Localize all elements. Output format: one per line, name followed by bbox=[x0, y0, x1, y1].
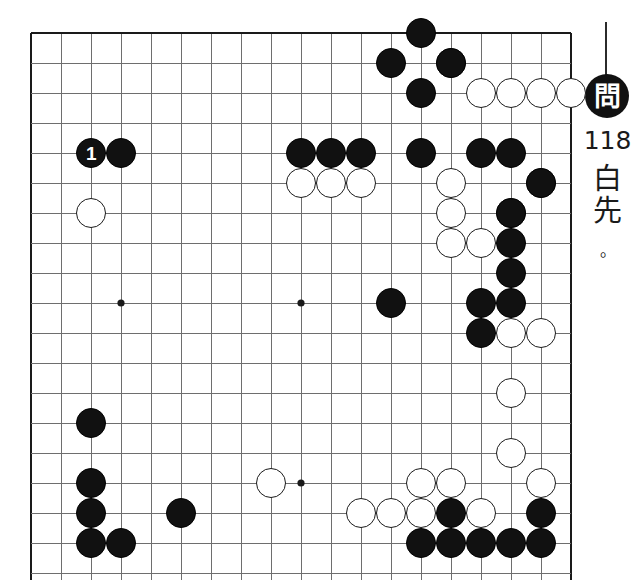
black-stone[interactable] bbox=[496, 528, 526, 558]
black-stone[interactable] bbox=[436, 498, 466, 528]
white-stone[interactable] bbox=[76, 198, 106, 228]
go-board[interactable]: 1 bbox=[0, 0, 580, 580]
black-stone[interactable] bbox=[436, 528, 466, 558]
black-stone[interactable] bbox=[496, 198, 526, 228]
white-stone[interactable] bbox=[496, 438, 526, 468]
black-stone[interactable] bbox=[526, 528, 556, 558]
black-stone[interactable] bbox=[76, 498, 106, 528]
white-stone[interactable] bbox=[436, 228, 466, 258]
white-stone[interactable] bbox=[316, 168, 346, 198]
black-stone[interactable] bbox=[496, 138, 526, 168]
white-stone[interactable] bbox=[436, 468, 466, 498]
problem-number: 118 bbox=[578, 126, 637, 155]
white-stone[interactable] bbox=[256, 468, 286, 498]
white-stone[interactable] bbox=[526, 468, 556, 498]
white-stone[interactable] bbox=[346, 168, 376, 198]
white-stone[interactable] bbox=[466, 78, 496, 108]
black-stone[interactable] bbox=[76, 528, 106, 558]
black-stone[interactable] bbox=[496, 288, 526, 318]
black-stone[interactable] bbox=[76, 468, 106, 498]
black-stone[interactable] bbox=[466, 138, 496, 168]
white-stone[interactable] bbox=[376, 498, 406, 528]
black-stone[interactable] bbox=[526, 168, 556, 198]
white-stone[interactable] bbox=[496, 318, 526, 348]
white-stone[interactable] bbox=[406, 498, 436, 528]
black-stone[interactable] bbox=[466, 528, 496, 558]
white-stone[interactable] bbox=[406, 468, 436, 498]
black-stone[interactable]: 1 bbox=[76, 138, 106, 168]
white-stone[interactable] bbox=[436, 168, 466, 198]
black-stone[interactable] bbox=[496, 258, 526, 288]
white-stone[interactable] bbox=[496, 378, 526, 408]
black-stone[interactable] bbox=[496, 228, 526, 258]
black-stone[interactable] bbox=[406, 138, 436, 168]
turn-period: 。 bbox=[578, 243, 637, 259]
turn-indicator: 白先 bbox=[578, 163, 637, 228]
white-stone[interactable] bbox=[286, 168, 316, 198]
black-stone[interactable] bbox=[376, 288, 406, 318]
sidebar-rule-line bbox=[605, 22, 607, 76]
black-stone[interactable] bbox=[316, 138, 346, 168]
go-problem-page: 1 問 118 白先 。 bbox=[0, 0, 637, 580]
black-stone[interactable] bbox=[106, 528, 136, 558]
white-stone[interactable] bbox=[526, 78, 556, 108]
stone-layer: 1 bbox=[0, 0, 580, 580]
black-stone[interactable] bbox=[376, 48, 406, 78]
black-stone[interactable] bbox=[406, 78, 436, 108]
black-stone[interactable] bbox=[106, 138, 136, 168]
stone-move-number: 1 bbox=[77, 139, 105, 167]
problem-sidebar: 問 118 白先 。 bbox=[578, 0, 637, 580]
white-stone[interactable] bbox=[466, 498, 496, 528]
turn-char-1: 先 bbox=[578, 195, 637, 227]
black-stone[interactable] bbox=[286, 138, 316, 168]
black-stone[interactable] bbox=[526, 498, 556, 528]
black-stone[interactable] bbox=[76, 408, 106, 438]
white-stone[interactable] bbox=[466, 228, 496, 258]
black-stone[interactable] bbox=[406, 528, 436, 558]
white-stone[interactable] bbox=[496, 78, 526, 108]
black-stone[interactable] bbox=[406, 18, 436, 48]
black-stone[interactable] bbox=[436, 48, 466, 78]
black-stone[interactable] bbox=[346, 138, 376, 168]
white-stone[interactable] bbox=[556, 78, 586, 108]
white-stone[interactable] bbox=[526, 318, 556, 348]
white-stone[interactable] bbox=[436, 198, 466, 228]
turn-char-0: 白 bbox=[578, 163, 637, 195]
white-stone[interactable] bbox=[346, 498, 376, 528]
black-stone[interactable] bbox=[466, 288, 496, 318]
problem-badge: 問 bbox=[585, 74, 629, 118]
black-stone[interactable] bbox=[166, 498, 196, 528]
black-stone[interactable] bbox=[466, 318, 496, 348]
